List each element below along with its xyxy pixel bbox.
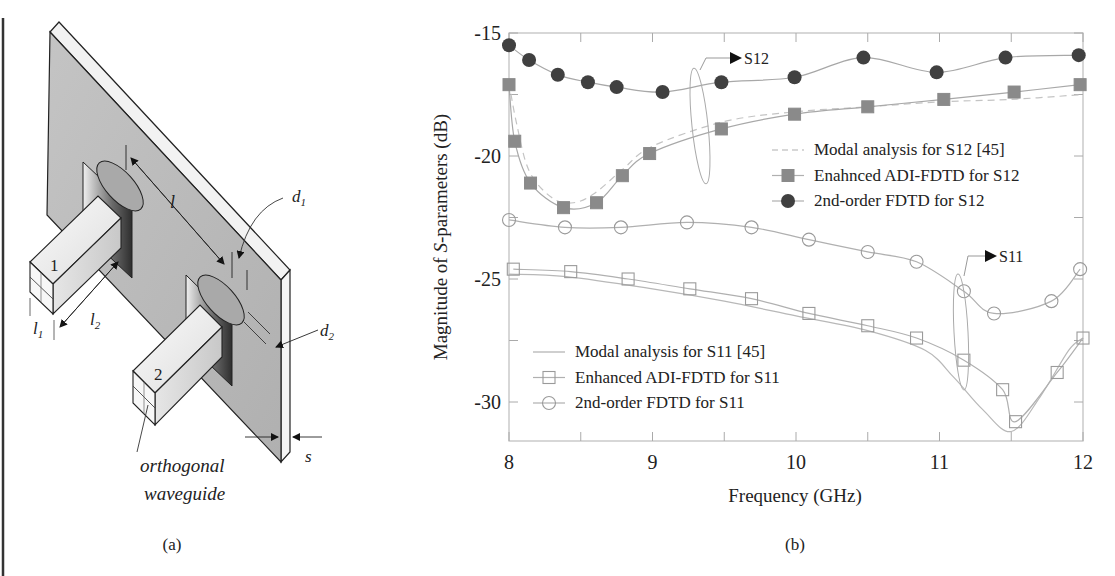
- marker-filled-square: [862, 101, 874, 113]
- label-waveguide: waveguide: [144, 483, 225, 504]
- label-d1: d1: [292, 187, 306, 208]
- legend-entry: Enahnced ADI-FDTD for S12: [814, 166, 1019, 185]
- marker-filled-square: [509, 135, 521, 147]
- s-parameter-chart: 89101112-15-20-25-30 Modal analysis for …: [340, 0, 1115, 576]
- port-1-label: 1: [50, 256, 59, 275]
- series-5: [503, 213, 1087, 319]
- label-s: s: [305, 447, 312, 466]
- legend-entry: Modal analysis for S11 [45]: [575, 342, 765, 361]
- label-l1: l1: [33, 319, 43, 340]
- x-tick-label: 8: [504, 451, 514, 473]
- s12-bracket: [686, 67, 714, 184]
- x-axis-title: Frequency (GHz): [728, 485, 861, 507]
- label-l2: l2: [90, 310, 101, 331]
- series-line: [509, 220, 1080, 314]
- legend-s12: Modal analysis for S12 [45]Enahnced ADI-…: [772, 140, 1019, 210]
- marker-filled-circle: [930, 65, 944, 79]
- marker-filled-circle: [502, 38, 516, 52]
- marker-filled-square: [591, 197, 603, 209]
- series-2: [502, 38, 1086, 99]
- x-tick-label: 11: [930, 451, 949, 473]
- marker-filled-square: [782, 170, 794, 182]
- label-l: l: [170, 192, 175, 212]
- marker-filled-square: [1074, 79, 1086, 91]
- marker-filled-circle: [781, 194, 795, 208]
- s12-arrow-icon: [730, 52, 742, 64]
- marker-filled-circle: [999, 51, 1013, 65]
- x-tick-label: 9: [648, 451, 658, 473]
- legend-s11: Modal analysis for S11 [45]Enhanced ADI-…: [533, 342, 780, 412]
- s11-annotation: S11: [999, 248, 1023, 265]
- marker-filled-square: [715, 123, 727, 135]
- y-axis-title: Magnitude of S-parameters (dB): [430, 114, 452, 360]
- legend-entry: 2nd-order FDTD for S12: [814, 191, 984, 210]
- marker-filled-circle: [551, 68, 565, 82]
- marker-filled-square: [789, 108, 801, 120]
- waveguide-diagram: 1 2 l d1 d2 l1 l2 s orthogonal waveguide: [0, 0, 340, 576]
- x-tick-label: 12: [1073, 451, 1093, 473]
- label-orthogonal: orthogonal: [140, 455, 224, 476]
- s11-arrow-icon: [985, 250, 997, 262]
- marker-filled-circle: [856, 51, 870, 65]
- marker-filled-square: [525, 177, 537, 189]
- marker-filled-circle: [581, 75, 595, 89]
- y-tick-label: -30: [474, 391, 501, 413]
- marker-filled-square: [1008, 86, 1020, 98]
- y-tick-label: -20: [474, 145, 501, 167]
- caption-b: (b): [785, 535, 805, 554]
- marker-filled-circle: [656, 85, 670, 99]
- marker-filled-square: [616, 170, 628, 182]
- marker-filled-square: [503, 79, 515, 91]
- annotations: S12S11: [686, 50, 1023, 390]
- y-tick-label: -15: [474, 22, 501, 44]
- y-tick-label: -25: [474, 268, 501, 290]
- legend-entry: 2nd-order FDTD for S11: [575, 393, 745, 412]
- caption-a: (a): [163, 535, 182, 554]
- series-line: [509, 45, 1079, 92]
- s12-annotation: S12: [744, 50, 769, 67]
- legend-entry: Modal analysis for S12 [45]: [814, 140, 1005, 159]
- marker-filled-square: [558, 202, 570, 214]
- plate-side-edge: [281, 270, 290, 462]
- x-tick-label: 10: [786, 451, 806, 473]
- label-d2: d2: [320, 321, 335, 342]
- s11-bracket: [951, 274, 971, 391]
- marker-filled-circle: [1072, 48, 1086, 62]
- panel-a-diagram: 1 2 l d1 d2 l1 l2 s orthogonal waveguide: [0, 0, 340, 576]
- marker-filled-circle: [610, 80, 624, 94]
- marker-filled-circle: [788, 70, 802, 84]
- marker-filled-circle: [714, 75, 728, 89]
- legend-entry: Enhanced ADI-FDTD for S11: [575, 368, 780, 387]
- marker-filled-circle: [522, 53, 536, 67]
- panel-b-chart: 89101112-15-20-25-30 Modal analysis for …: [340, 0, 1115, 576]
- marker-filled-square: [938, 93, 950, 105]
- marker-filled-square: [644, 148, 656, 160]
- port-2-label: 2: [154, 365, 163, 384]
